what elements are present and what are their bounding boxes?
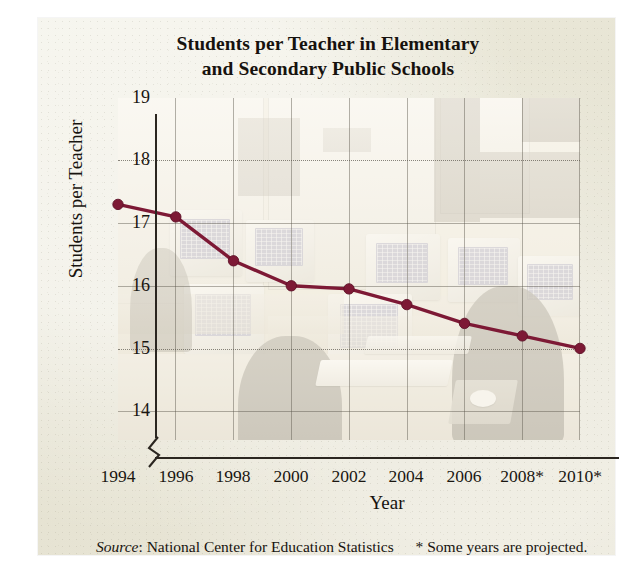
- y-tick-17: 17: [120, 212, 150, 233]
- x-tick-1994: 1994: [91, 466, 145, 487]
- x-tick-2000: 2000: [264, 466, 318, 487]
- x-tick-2006: 2006: [437, 466, 491, 487]
- y-tick-19: 19: [120, 87, 150, 108]
- gridline-x-2008: [522, 98, 523, 440]
- x-tick-2010: 2010*: [550, 466, 610, 487]
- y-axis-title: Students per Teacher: [65, 99, 87, 299]
- y-axis-line: [155, 114, 157, 438]
- x-tick-2004: 2004: [379, 466, 433, 487]
- x-tick-1996: 1996: [149, 466, 203, 487]
- projection-footnote: * Some years are projected.: [416, 538, 588, 555]
- plot-area: [118, 98, 580, 440]
- y-tick-15: 15: [120, 338, 150, 359]
- y-axis-tick-labels: 19 18 17 16 15 14: [118, 18, 150, 585]
- source-separator: :: [138, 538, 142, 555]
- chart-title-line-1: Students per Teacher in Elementary: [78, 32, 578, 57]
- y-tick-16: 16: [120, 275, 150, 296]
- gridline-x-2006: [464, 98, 465, 440]
- chart-title: Students per Teacher in Elementary and S…: [78, 32, 578, 82]
- source-text: National Center for Education Statistics: [147, 538, 394, 555]
- gridline-x-2002: [349, 98, 350, 440]
- x-axis-line: [155, 457, 619, 459]
- gridline-x-1996: [175, 98, 176, 440]
- x-tick-1998: 1998: [206, 466, 260, 487]
- source-note: Source: National Center for Education St…: [96, 538, 641, 556]
- x-tick-2008: 2008*: [492, 466, 552, 487]
- gridline-x-2004: [407, 98, 408, 440]
- source-label: Source: [96, 538, 138, 555]
- chart-title-line-2: and Secondary Public Schools: [78, 57, 578, 82]
- chart-panel: Students per Teacher in Elementary and S…: [38, 18, 615, 555]
- gridline-x-2000: [291, 98, 292, 440]
- y-tick-18: 18: [120, 149, 150, 170]
- gridline-x-1998: [233, 98, 234, 440]
- gridline-x-2010: [579, 98, 580, 440]
- y-tick-14: 14: [120, 400, 150, 421]
- x-axis-title: Year: [156, 492, 618, 514]
- x-tick-2002: 2002: [322, 466, 376, 487]
